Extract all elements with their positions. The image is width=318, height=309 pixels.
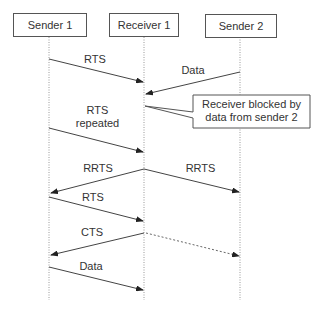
participant-label: Receiver 1 — [118, 19, 171, 31]
message-label-rrts-sender2: RRTS — [178, 162, 223, 175]
participant-sender2: Sender 2 — [205, 14, 277, 38]
message-label-data-sender1: Data — [76, 260, 106, 273]
message-label-rrts-sender1: RRTS — [78, 162, 118, 175]
message-label-rts-1: RTS — [80, 53, 110, 66]
label-line-1: RTS — [70, 104, 125, 117]
participant-receiver1: Receiver 1 — [109, 13, 179, 37]
callout-line-2: data from sender 2 — [193, 111, 310, 124]
callout-line-1: Receiver blocked by — [193, 98, 310, 111]
message-label-data-sender2: Data — [178, 64, 208, 77]
participant-label: Sender 2 — [219, 20, 264, 32]
arrow-rts-repeated — [49, 128, 143, 152]
message-label-cts: CTS — [77, 226, 107, 239]
arrow-cts-overheard — [146, 233, 239, 256]
label-line-2: repeated — [70, 117, 125, 130]
participant-sender1: Sender 1 — [13, 13, 87, 37]
participant-label: Sender 1 — [28, 19, 73, 31]
callout-text: Receiver blocked by data from sender 2 — [193, 98, 310, 124]
message-label-rts-repeated: RTS repeated — [70, 104, 125, 130]
message-label-rts-2: RTS — [78, 191, 108, 204]
sequence-diagram-canvas — [0, 0, 318, 309]
